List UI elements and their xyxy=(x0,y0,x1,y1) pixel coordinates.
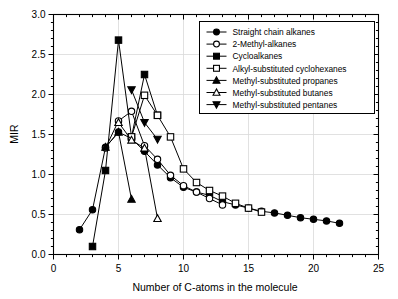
x-tick-label: 15 xyxy=(243,263,255,274)
data-point-filled-circle xyxy=(76,227,82,233)
data-point-open-square xyxy=(167,134,173,140)
data-point-filled-circle xyxy=(214,29,220,35)
legend-label: Methyl-substituted propanes xyxy=(233,76,338,86)
data-point-open-square xyxy=(219,193,225,199)
data-point-filled-circle xyxy=(310,216,316,222)
data-point-open-square xyxy=(245,205,251,211)
legend-label: 2-Methyl-alkanes xyxy=(233,39,297,49)
data-point-filled-circle xyxy=(297,215,303,221)
y-tick-label: 1.0 xyxy=(32,169,46,180)
data-point-open-circle xyxy=(154,156,160,162)
y-tick-label: 0.5 xyxy=(32,209,46,220)
x-tick-label: 20 xyxy=(308,263,320,274)
data-point-filled-square xyxy=(115,37,121,43)
data-point-filled-circle xyxy=(284,212,290,218)
y-tick-label: 2.5 xyxy=(32,49,46,60)
y-tick-label: 1.5 xyxy=(32,129,46,140)
legend-label: Straight chain alkanes xyxy=(233,27,315,37)
data-point-open-circle xyxy=(193,189,199,195)
data-point-filled-circle xyxy=(89,207,95,213)
legend-label: Methyl-substituted pentanes xyxy=(233,100,338,110)
data-point-open-circle xyxy=(167,172,173,178)
y-axis-title: MIR xyxy=(8,124,20,144)
data-point-filled-square xyxy=(89,243,95,249)
data-point-open-square xyxy=(258,209,264,215)
data-point-open-circle xyxy=(128,108,134,114)
data-point-open-circle xyxy=(180,183,186,189)
y-tick-label: 0.0 xyxy=(32,249,46,260)
data-point-filled-square xyxy=(141,71,147,77)
legend-label: Methyl-substituted butanes xyxy=(233,88,333,98)
chart-legend: Straight chain alkanes2-Methyl-alkanesCy… xyxy=(200,22,375,114)
x-tick-label: 25 xyxy=(373,263,385,274)
chart-canvas: 0510152025 0.00.51.01.52.02.53.0 Number … xyxy=(0,0,398,299)
data-point-open-circle xyxy=(206,195,212,201)
data-point-open-square xyxy=(141,92,147,98)
y-tick-label: 2.0 xyxy=(32,89,46,100)
data-point-open-square xyxy=(214,65,220,71)
data-point-open-circle xyxy=(219,202,225,208)
x-axis-title: Number of C-atoms in the molecule xyxy=(132,281,297,293)
data-point-open-square xyxy=(232,200,238,206)
legend-label: Alkyl-substituted cyclohexanes xyxy=(233,64,347,74)
x-tick-label: 5 xyxy=(116,263,122,274)
data-point-filled-square xyxy=(102,167,108,173)
legend-label: Cycloalkanes xyxy=(233,51,283,61)
data-point-open-square xyxy=(206,187,212,193)
data-point-filled-square xyxy=(214,53,220,59)
x-tick-label: 10 xyxy=(178,263,190,274)
x-tick-label: 0 xyxy=(51,263,57,274)
data-point-filled-circle xyxy=(336,220,342,226)
y-tick-label: 3.0 xyxy=(32,9,46,20)
data-point-open-square xyxy=(180,166,186,172)
data-point-open-circle xyxy=(214,41,220,47)
data-point-filled-circle xyxy=(271,210,277,216)
data-point-open-square xyxy=(193,179,199,185)
data-point-open-square xyxy=(154,112,160,118)
data-point-filled-circle xyxy=(323,218,329,224)
mir-vs-carbon-number-chart: 0510152025 0.00.51.01.52.02.53.0 Number … xyxy=(0,0,398,299)
